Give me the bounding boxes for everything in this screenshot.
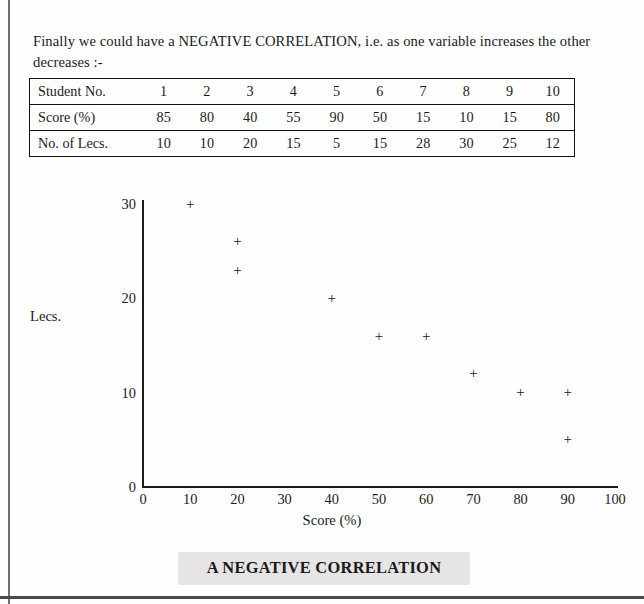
x-tick-label: 100 (595, 492, 635, 506)
table-cell: 7 (402, 79, 445, 105)
y-tick-label: 0 (96, 480, 136, 494)
x-tick-label: 60 (406, 492, 446, 506)
y-tick-label: 10 (96, 386, 136, 400)
data-point-marker (185, 199, 196, 210)
document-page: Finally we could have a NEGATIVE CORRELA… (0, 0, 644, 604)
table-cell: 3 (229, 79, 272, 105)
table-row-header: No. of Lecs. (30, 131, 143, 157)
table-cell: 9 (488, 79, 531, 105)
correlation-data-table: Student No.12345678910Score (%)858040559… (29, 78, 575, 157)
table-cell: 15 (488, 105, 531, 131)
data-point-marker (232, 236, 243, 247)
data-point-marker (515, 387, 526, 398)
y-tick-label: 20 (96, 291, 136, 305)
y-axis-line (142, 200, 144, 488)
table-cell: 6 (358, 79, 401, 105)
table-cell: 15 (272, 131, 315, 157)
table-cell: 50 (358, 105, 401, 131)
table-cell: 80 (185, 105, 228, 131)
table-row-header: Score (%) (30, 105, 143, 131)
x-tick-label: 10 (170, 492, 210, 506)
data-point-marker (562, 387, 573, 398)
table-cell: 20 (229, 131, 272, 157)
table-row: Score (%)85804055905015101580 (30, 105, 575, 131)
y-axis-label: Lecs. (30, 308, 61, 325)
table-cell: 15 (358, 131, 401, 157)
intro-paragraph: Finally we could have a NEGATIVE CORRELA… (33, 31, 621, 73)
table-cell: 5 (315, 131, 358, 157)
x-tick-label: 20 (217, 492, 257, 506)
data-point-marker (374, 331, 385, 342)
data-point-marker (421, 331, 432, 342)
data-point-marker (232, 265, 243, 276)
table-cell: 8 (445, 79, 488, 105)
table-row: Student No.12345678910 (30, 79, 575, 105)
table-row: No. of Lecs.1010201551528302512 (30, 131, 575, 157)
x-tick-label: 0 (123, 492, 163, 506)
table-cell: 5 (315, 79, 358, 105)
table-cell: 85 (142, 105, 185, 131)
table-cell: 90 (315, 105, 358, 131)
figure-caption: A NEGATIVE CORRELATION (178, 552, 470, 585)
page-bottom-edge (0, 596, 644, 599)
table-cell: 40 (229, 105, 272, 131)
table-cell: 30 (445, 131, 488, 157)
data-point-marker (562, 434, 573, 445)
x-tick-label: 90 (548, 492, 588, 506)
table-cell: 4 (272, 79, 315, 105)
table-cell: 55 (272, 105, 315, 131)
table-row-header: Student No. (30, 79, 143, 105)
table-cell: 12 (531, 131, 574, 157)
x-tick-label: 70 (453, 492, 493, 506)
data-point-marker (326, 293, 337, 304)
table-cell: 28 (402, 131, 445, 157)
x-tick-label: 30 (265, 492, 305, 506)
table-cell: 80 (531, 105, 574, 131)
table-cell: 10 (185, 131, 228, 157)
table-cell: 10 (142, 131, 185, 157)
x-axis-line (142, 486, 618, 488)
table-cell: 15 (402, 105, 445, 131)
x-axis-label: Score (%) (242, 512, 422, 529)
data-point-marker (468, 368, 479, 379)
data-table-container: Student No.12345678910Score (%)858040559… (29, 78, 575, 157)
table-cell: 1 (142, 79, 185, 105)
table-cell: 2 (185, 79, 228, 105)
table-cell: 25 (488, 131, 531, 157)
x-tick-label: 80 (501, 492, 541, 506)
table-cell: 10 (531, 79, 574, 105)
y-tick-label: 30 (96, 197, 136, 211)
x-tick-label: 50 (359, 492, 399, 506)
x-tick-label: 40 (312, 492, 352, 506)
table-cell: 10 (445, 105, 488, 131)
page-gutter-line (8, 0, 10, 604)
